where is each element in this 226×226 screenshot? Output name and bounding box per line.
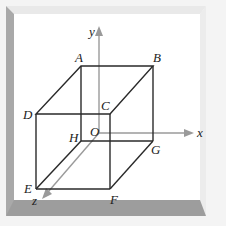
frame-right-bevel <box>200 6 206 216</box>
label-x-axis: x <box>196 125 203 140</box>
label-C: C <box>101 98 110 113</box>
label-F: F <box>109 192 119 207</box>
frame-left-bevel <box>6 6 14 216</box>
label-G: G <box>151 142 161 157</box>
frame-top-bevel <box>6 6 206 14</box>
label-y-axis: y <box>87 24 95 39</box>
cube-diagram: A B C D E F G H O x y z <box>0 0 226 226</box>
label-B: B <box>153 50 161 65</box>
label-H: H <box>68 130 79 145</box>
label-A: A <box>74 50 83 65</box>
label-E: E <box>23 181 32 196</box>
label-D: D <box>22 107 33 122</box>
label-O: O <box>90 124 100 139</box>
label-z-axis: z <box>31 193 37 208</box>
